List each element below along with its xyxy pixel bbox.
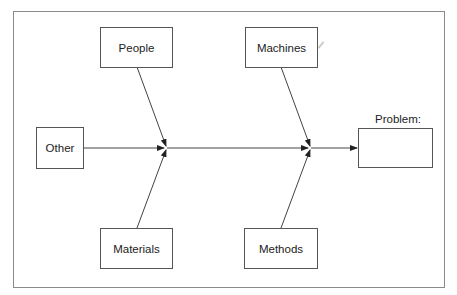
cause-box-methods[interactable]: Methods [244, 228, 318, 269]
effect-label: Problem: [375, 113, 421, 125]
machines-arrow [281, 67, 310, 146]
materials-arrow [137, 150, 166, 228]
cause-label-other: Other [46, 142, 75, 154]
cause-box-materials[interactable]: Materials [100, 228, 173, 269]
cause-box-machines[interactable]: Machines [245, 27, 318, 68]
cause-label-methods: Methods [259, 243, 303, 255]
cause-label-machines: Machines [257, 42, 306, 54]
cause-label-materials: Materials [113, 243, 160, 255]
cause-label-people: People [119, 42, 155, 54]
cause-box-other[interactable]: Other [36, 127, 84, 169]
effect-box-problem[interactable] [358, 128, 433, 168]
cause-box-people[interactable]: People [100, 27, 173, 68]
methods-arrow [281, 150, 310, 228]
people-arrow [137, 67, 166, 146]
